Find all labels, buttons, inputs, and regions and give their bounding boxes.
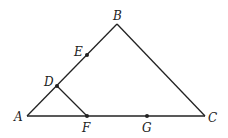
segment-ab bbox=[27, 24, 117, 116]
label-f: F bbox=[81, 121, 91, 135]
label-a: A bbox=[13, 110, 23, 124]
point-f-dot bbox=[85, 114, 89, 118]
label-b: B bbox=[112, 9, 122, 23]
label-d: D bbox=[43, 75, 54, 89]
segment-bc bbox=[117, 24, 205, 116]
label-e: E bbox=[73, 45, 83, 59]
segment-df bbox=[57, 86, 87, 116]
point-d-dot bbox=[55, 84, 59, 88]
label-c: C bbox=[208, 111, 217, 125]
label-g: G bbox=[142, 121, 152, 135]
point-e-dot bbox=[85, 53, 89, 57]
point-g-dot bbox=[145, 114, 149, 118]
triangle-diagram: A B C D E F G bbox=[0, 0, 228, 138]
